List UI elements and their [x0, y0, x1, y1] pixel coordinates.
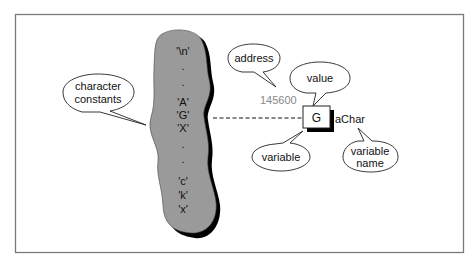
constant-G: 'G' [177, 109, 190, 121]
value-label: value [307, 72, 333, 84]
constant-k: 'k' [178, 189, 188, 201]
variable-value: G [312, 111, 321, 125]
constant-c: 'c' [178, 175, 188, 187]
address-value: 145600 [260, 94, 297, 106]
callout-text-line1: character [75, 80, 121, 92]
ellipsis-dot: . [181, 60, 184, 72]
constant-A: 'A' [177, 96, 189, 108]
ellipsis-dot: . [181, 153, 184, 165]
ellipsis-dot: . [181, 76, 184, 88]
ellipsis-dot: . [181, 138, 184, 150]
constant-x: 'x' [178, 203, 188, 215]
constant-X: 'X' [177, 122, 189, 134]
address-label: address [234, 52, 274, 64]
variable-name-label-line1: variable [351, 145, 390, 157]
diagram-canvas: '\n' . . 'A' 'G' 'X' . . 'c' 'k' 'x' cha… [0, 0, 475, 258]
callout-text-line2: constants [74, 93, 122, 105]
variable-name-label-line2: name [356, 157, 384, 169]
variable-name: aChar [335, 113, 365, 125]
constant-newline: '\n' [176, 45, 189, 57]
variable-label: variable [262, 151, 301, 163]
